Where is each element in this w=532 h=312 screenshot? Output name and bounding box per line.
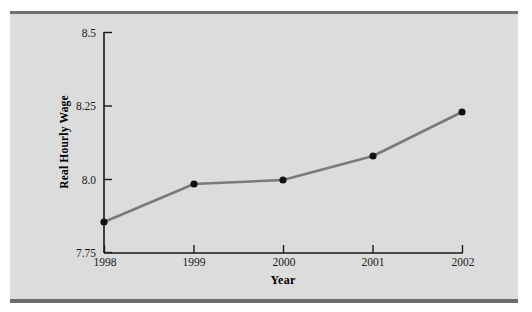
x-axis-ticks — [105, 245, 463, 253]
chart-figure: 8.5 8.25 8.0 7.75 1998 1999 2000 2001 20… — [0, 0, 532, 312]
data-markers — [100, 108, 465, 225]
x-axis-title: Year — [223, 273, 343, 288]
data-point-1998 — [100, 218, 107, 225]
x-tick-label-2002: 2002 — [441, 256, 485, 268]
data-point-2002 — [458, 108, 465, 115]
data-point-1999 — [190, 180, 197, 187]
x-tick-label-2000: 2000 — [262, 256, 306, 268]
data-line-series-1 — [104, 112, 462, 222]
y-tick-label-8-5: 8.5 — [56, 27, 96, 39]
y-axis-title: Real Hourly Wage — [58, 92, 70, 192]
data-point-2000 — [279, 176, 286, 183]
x-tick-label-1998: 1998 — [83, 256, 127, 268]
x-tick-label-1999: 1999 — [172, 256, 216, 268]
data-point-2001 — [369, 152, 376, 159]
x-tick-label-2001: 2001 — [351, 256, 395, 268]
